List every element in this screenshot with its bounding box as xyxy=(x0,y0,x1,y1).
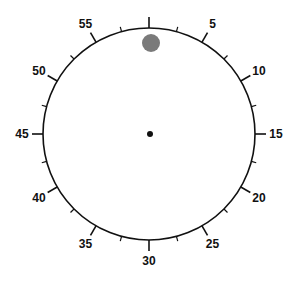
minor-tick xyxy=(251,161,256,162)
minor-tick xyxy=(120,27,121,32)
minor-tick xyxy=(176,236,177,241)
minor-tick xyxy=(71,209,75,213)
major-tick xyxy=(91,226,97,236)
major-tick xyxy=(91,33,97,43)
dial-label-55: 55 xyxy=(79,17,93,31)
dial-label-30: 30 xyxy=(142,254,156,268)
minor-tick xyxy=(176,27,177,32)
minor-tick xyxy=(224,56,228,60)
minor-tick xyxy=(251,105,256,106)
dial-labels: 510152025303540455055 xyxy=(15,17,283,268)
dial-label-20: 20 xyxy=(252,191,266,205)
major-tick xyxy=(48,76,58,82)
dial-label-35: 35 xyxy=(79,237,93,251)
major-tick xyxy=(48,187,58,193)
minor-tick xyxy=(120,236,121,241)
clock-dial-diagram: 510152025303540455055 xyxy=(0,0,295,284)
dial-label-10: 10 xyxy=(252,64,266,78)
dial-label-15: 15 xyxy=(269,127,283,141)
minor-tick xyxy=(42,161,47,162)
position-marker xyxy=(142,34,160,52)
dial-label-40: 40 xyxy=(32,191,46,205)
dial-label-45: 45 xyxy=(15,127,29,141)
dial-label-5: 5 xyxy=(209,17,216,31)
minor-tick xyxy=(71,56,75,60)
minor-tick xyxy=(224,209,228,213)
major-tick xyxy=(202,33,208,43)
center-dot xyxy=(147,131,153,137)
major-tick xyxy=(241,187,251,193)
minor-tick xyxy=(42,105,47,106)
major-tick xyxy=(202,226,208,236)
dial-label-50: 50 xyxy=(32,64,46,78)
major-tick xyxy=(241,76,251,82)
dial-label-25: 25 xyxy=(206,237,220,251)
